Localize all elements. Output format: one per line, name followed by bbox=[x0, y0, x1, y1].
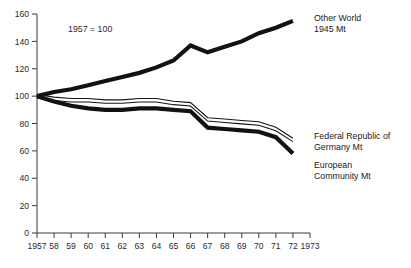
x-tick-label: 1973 bbox=[300, 241, 319, 251]
y-tick-label: 140 bbox=[15, 37, 30, 47]
x-tick-label: 69 bbox=[237, 241, 247, 251]
line-chart: 020406080100120140160 195758596061626364… bbox=[0, 0, 411, 268]
x-tick-label: 71 bbox=[271, 241, 281, 251]
x-tick-label: 62 bbox=[118, 241, 128, 251]
series-label-1-line2: Germany Mt bbox=[314, 142, 363, 152]
y-tick-label: 60 bbox=[19, 146, 29, 156]
x-tick-label: 67 bbox=[203, 241, 213, 251]
x-tick-label: 58 bbox=[49, 241, 59, 251]
series-label-0-line2: 1945 Mt bbox=[314, 24, 346, 34]
series-lines bbox=[37, 21, 293, 154]
x-axis: 19575859606162636465666768697071721973 bbox=[27, 233, 319, 251]
y-axis: 020406080100120140160 bbox=[15, 9, 37, 238]
series-label-0-line1: Other World bbox=[314, 13, 361, 23]
x-tick-label: 70 bbox=[254, 241, 264, 251]
x-tick-label: 68 bbox=[220, 241, 230, 251]
chart-container: 020406080100120140160 195758596061626364… bbox=[0, 0, 411, 268]
y-tick-label: 0 bbox=[24, 228, 29, 238]
x-tick-label: 66 bbox=[186, 241, 196, 251]
y-tick-label: 20 bbox=[19, 201, 29, 211]
y-tick-label: 120 bbox=[15, 64, 30, 74]
x-tick-label: 60 bbox=[83, 241, 93, 251]
index-base-annotation: 1957 = 100 bbox=[68, 24, 112, 34]
x-tick-label: 64 bbox=[152, 241, 162, 251]
y-tick-label: 160 bbox=[15, 9, 30, 19]
y-tick-label: 40 bbox=[19, 173, 29, 183]
y-tick-label: 100 bbox=[15, 91, 30, 101]
y-tick-label: 80 bbox=[19, 119, 29, 129]
series-label-1-line1: Federal Republic of bbox=[314, 131, 391, 141]
series-label-2-line2: Community Mt bbox=[314, 171, 371, 181]
x-tick-label: 59 bbox=[66, 241, 76, 251]
x-tick-label: 1957 bbox=[27, 241, 46, 251]
series-labels: Other World1945 MtFederal Republic ofGer… bbox=[314, 13, 391, 181]
x-tick-label: 63 bbox=[135, 241, 145, 251]
x-tick-label: 65 bbox=[169, 241, 179, 251]
series-label-2-line1: European bbox=[314, 160, 352, 170]
x-tick-label: 72 bbox=[288, 241, 298, 251]
x-tick-label: 61 bbox=[100, 241, 110, 251]
